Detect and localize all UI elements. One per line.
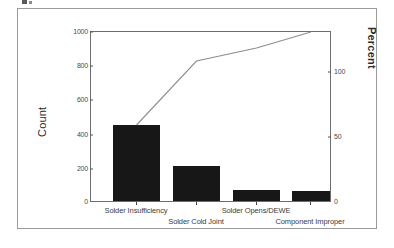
percent-axis-ticks: 100 50 0 bbox=[334, 31, 360, 202]
xtick-1 bbox=[136, 202, 137, 205]
scan-speck-secondary bbox=[29, 1, 32, 4]
xtick-2 bbox=[196, 202, 197, 205]
count-axis-title: Count bbox=[36, 107, 48, 137]
cumulative-percent-line bbox=[91, 32, 330, 201]
count-tick-1000: 1000 bbox=[73, 28, 88, 35]
category-label-component-improper: Component Improper bbox=[275, 217, 344, 226]
scan-speck bbox=[22, 0, 27, 4]
percent-tick-100: 100 bbox=[334, 68, 345, 75]
percent-axis-title: Percent bbox=[366, 27, 378, 69]
xtick-3 bbox=[256, 202, 257, 205]
count-axis-ticks: 1000 800 600 400 200 0 bbox=[62, 31, 88, 202]
count-tick-0: 0 bbox=[84, 198, 88, 205]
count-tick-400: 400 bbox=[77, 130, 88, 137]
category-label-solder-insufficiency: Solder Insufficiency bbox=[105, 206, 168, 215]
category-label-solder-cold-joint: Solder Cold Joint bbox=[168, 217, 223, 226]
count-tick-800: 800 bbox=[77, 62, 88, 69]
percent-tick-50: 50 bbox=[334, 133, 341, 140]
count-tick-200: 200 bbox=[77, 164, 88, 171]
cumulative-percent-polyline bbox=[137, 32, 312, 125]
xtick-4 bbox=[310, 202, 311, 205]
percent-tick-0: 0 bbox=[334, 198, 338, 205]
category-label-solder-opens-dewe: Solder Opens/DEWE bbox=[222, 206, 291, 215]
count-tick-600: 600 bbox=[77, 96, 88, 103]
pareto-chart-figure: 1000 800 600 400 200 0 100 50 0 Count Pe… bbox=[17, 8, 377, 229]
scan-artifact bbox=[8, 0, 128, 6]
